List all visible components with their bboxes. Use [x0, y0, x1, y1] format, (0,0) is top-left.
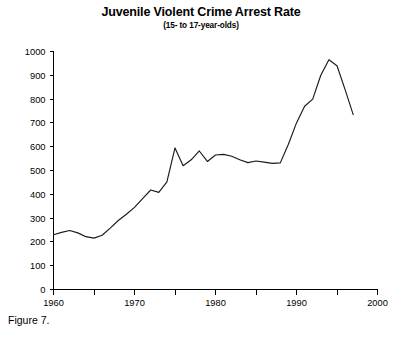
figure-juvenile-violent-crime-arrest-rate: Juvenile Violent Crime Arrest Rate (15- …: [0, 0, 402, 337]
y-tick-label: 100: [30, 261, 46, 271]
chart-plot-area: 01002003004005006007008009001000 1960197…: [0, 0, 402, 337]
data-series-group: [54, 60, 354, 238]
y-tick-label: 1000: [25, 47, 46, 57]
y-tick-label: 700: [30, 118, 46, 128]
x-tick-label: 1990: [286, 298, 307, 308]
y-tick-label: 400: [30, 190, 46, 200]
y-tick-label: 500: [30, 166, 46, 176]
y-tick-label: 300: [30, 214, 46, 224]
data-line-juvenile-violent-crime-arrest-rate: [54, 60, 354, 238]
x-axis: 19601970198019902000: [43, 290, 388, 308]
y-tick-label: 0: [40, 285, 45, 295]
x-tick-label: 1970: [124, 298, 145, 308]
y-tick-label: 900: [30, 71, 46, 81]
x-tick-label: 1960: [43, 298, 64, 308]
x-tick-label: 1980: [205, 298, 226, 308]
y-tick-label: 200: [30, 237, 46, 247]
y-tick-label: 600: [30, 142, 46, 152]
y-axis: 01002003004005006007008009001000: [25, 47, 54, 295]
x-tick-label: 2000: [367, 298, 388, 308]
y-tick-label: 800: [30, 95, 46, 105]
figure-caption: Figure 7.: [8, 314, 49, 326]
